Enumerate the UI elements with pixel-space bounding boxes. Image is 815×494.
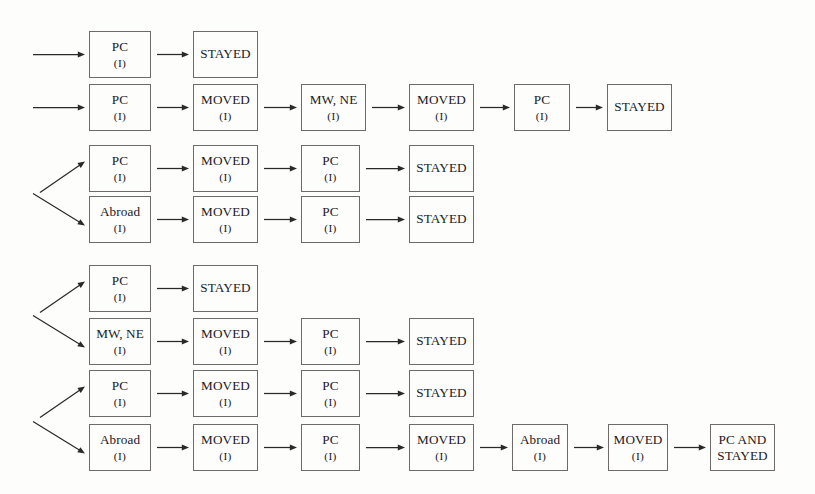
flow-node: PC(I) bbox=[514, 84, 570, 131]
flow-node: PC(I) bbox=[301, 424, 360, 471]
flow-node-count: (I) bbox=[114, 344, 126, 357]
flow-node-label: PC bbox=[112, 379, 128, 394]
entry-arrow-branch bbox=[33, 316, 85, 348]
connector-arrow bbox=[366, 339, 405, 345]
connector-arrow bbox=[480, 445, 508, 451]
flow-node-label: PC bbox=[322, 327, 338, 342]
flow-node-label: MW, NE bbox=[310, 93, 358, 108]
entry-arrow-branch bbox=[40, 282, 85, 313]
flow-node-count: (I) bbox=[114, 450, 126, 463]
flow-node: PC(I) bbox=[89, 145, 151, 192]
flow-node: MOVED(I) bbox=[193, 145, 258, 192]
flow-node-label: MOVED bbox=[201, 93, 250, 108]
flow-node: PC(I) bbox=[301, 145, 360, 192]
connector-arrow bbox=[574, 445, 604, 451]
connector-arrow bbox=[157, 339, 189, 345]
flow-node-label: PC bbox=[322, 379, 338, 394]
flow-node-label: Abroad bbox=[520, 433, 560, 448]
entry-arrow bbox=[33, 105, 85, 111]
flow-node: STAYED bbox=[409, 145, 474, 192]
flow-node-count: (I) bbox=[219, 222, 231, 235]
flow-node-label: PC bbox=[112, 154, 128, 169]
flow-node-count: (I) bbox=[114, 396, 126, 409]
flow-node: PC(I) bbox=[301, 196, 360, 243]
entry-arrow bbox=[33, 52, 85, 58]
flow-node-count: (I) bbox=[534, 450, 546, 463]
connector-arrow bbox=[264, 166, 297, 172]
flow-node-label: STAYED bbox=[416, 334, 466, 349]
flow-node: PC(I) bbox=[301, 318, 360, 365]
connector-arrow bbox=[264, 391, 297, 397]
flow-node-label: PC AND STAYED bbox=[711, 432, 774, 463]
flow-node: MOVED(I) bbox=[193, 370, 258, 417]
entry-arrow-branch bbox=[33, 194, 85, 226]
flow-node: MOVED(I) bbox=[193, 424, 258, 471]
flow-node: STAYED bbox=[409, 318, 474, 365]
entry-arrow-branch bbox=[40, 162, 85, 193]
flow-node-label: STAYED bbox=[200, 47, 250, 62]
flow-node-label: MOVED bbox=[201, 379, 250, 394]
flow-node: Abroad(I) bbox=[512, 424, 568, 471]
flow-node: STAYED bbox=[193, 265, 258, 312]
flow-node-count: (I) bbox=[632, 450, 644, 463]
flow-node-label: PC bbox=[112, 40, 128, 55]
flow-node: PC(I) bbox=[89, 370, 151, 417]
flow-node-count: (I) bbox=[324, 450, 336, 463]
flow-node-label: STAYED bbox=[416, 386, 466, 401]
flow-node-label: PC bbox=[534, 93, 550, 108]
flow-node-label: MW, NE bbox=[96, 327, 144, 342]
flow-node-count: (I) bbox=[435, 110, 447, 123]
flow-node: STAYED bbox=[409, 196, 474, 243]
flow-node-label: MOVED bbox=[417, 93, 466, 108]
connector-arrow bbox=[264, 105, 297, 111]
connector-arrow bbox=[674, 445, 706, 451]
flow-node: PC(I) bbox=[89, 31, 151, 78]
flow-node-label: MOVED bbox=[201, 433, 250, 448]
flow-node: PC(I) bbox=[89, 265, 151, 312]
connector-arrow bbox=[366, 445, 405, 451]
flow-node-count: (I) bbox=[327, 110, 339, 123]
flow-node: Abroad(I) bbox=[89, 424, 151, 471]
connector-arrow bbox=[366, 217, 405, 223]
connector-arrow bbox=[480, 105, 510, 111]
flow-node-count: (I) bbox=[114, 110, 126, 123]
flow-node: PC(I) bbox=[301, 370, 360, 417]
flow-node-label: STAYED bbox=[416, 161, 466, 176]
flow-node-count: (I) bbox=[324, 344, 336, 357]
flow-node: PC AND STAYED bbox=[710, 424, 775, 471]
flow-node-count: (I) bbox=[114, 57, 126, 70]
flow-node: MW, NE(I) bbox=[89, 318, 151, 365]
migration-flow-diagram: PC(I)STAYEDPC(I)MOVED(I)MW, NE(I)MOVED(I… bbox=[0, 0, 815, 494]
flow-node-label: PC bbox=[112, 93, 128, 108]
connector-arrow bbox=[157, 52, 189, 58]
flow-node-label: PC bbox=[112, 274, 128, 289]
flow-node-count: (I) bbox=[219, 344, 231, 357]
flow-node-label: PC bbox=[322, 433, 338, 448]
flow-node-label: MOVED bbox=[201, 327, 250, 342]
flow-node: STAYED bbox=[409, 370, 474, 417]
flow-node-count: (I) bbox=[219, 171, 231, 184]
flow-node-label: MOVED bbox=[201, 154, 250, 169]
flow-node: MOVED(I) bbox=[193, 84, 258, 131]
flow-node-label: STAYED bbox=[614, 100, 664, 115]
flow-node-count: (I) bbox=[219, 450, 231, 463]
connector-arrow bbox=[157, 166, 189, 172]
flow-node-label: Abroad bbox=[100, 205, 140, 220]
connector-arrow bbox=[157, 105, 189, 111]
flow-node-count: (I) bbox=[324, 171, 336, 184]
connector-arrow bbox=[372, 105, 405, 111]
flow-node-label: Abroad bbox=[100, 433, 140, 448]
flow-node: MOVED(I) bbox=[193, 318, 258, 365]
flow-node: MOVED(I) bbox=[409, 424, 474, 471]
flow-node-count: (I) bbox=[324, 396, 336, 409]
connector-arrow bbox=[157, 445, 189, 451]
entry-arrow-branch bbox=[40, 387, 85, 418]
flow-node: PC(I) bbox=[89, 84, 151, 131]
flow-node-label: MOVED bbox=[201, 205, 250, 220]
connector-arrow bbox=[157, 286, 189, 292]
flow-node: STAYED bbox=[193, 31, 258, 78]
connector-arrow bbox=[264, 217, 297, 223]
connector-arrow bbox=[366, 391, 405, 397]
flow-node-label: MOVED bbox=[614, 433, 663, 448]
connector-arrow bbox=[157, 391, 189, 397]
